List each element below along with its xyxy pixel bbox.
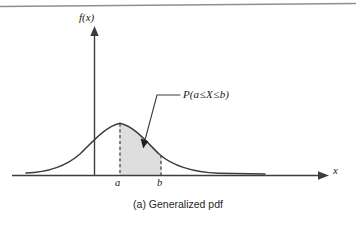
annotation-leader-line: [145, 95, 180, 140]
pdf-chart-canvas: [0, 0, 356, 225]
x-axis-arrowhead-icon: [318, 171, 329, 179]
y-axis-arrowhead-icon: [90, 26, 98, 36]
figure-caption: (a) Generalized pdf: [0, 198, 356, 210]
top-rule: [0, 4, 356, 7]
shaded-probability-region: [120, 110, 162, 175]
figure-generalized-pdf: f(x) x P(a≤X≤b) a b (a) Generalized pdf: [0, 0, 356, 225]
